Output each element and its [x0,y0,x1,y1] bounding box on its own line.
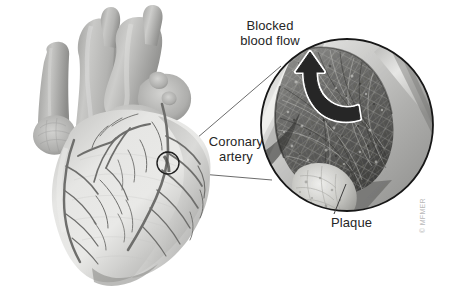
label-blocked-blood-flow-line1: Blocked [228,18,312,33]
label-coronary-artery: Coronary artery [200,134,272,164]
medical-illustration-figure: Blocked blood flow Coronary artery Plaqu… [0,0,451,302]
label-plaque: Plaque [331,215,372,230]
label-blocked-blood-flow: Blocked blood flow [228,18,312,48]
label-blocked-blood-flow-line2: blood flow [228,33,312,48]
label-coronary-artery-line1: Coronary [200,134,272,149]
label-coronary-artery-line2: artery [200,149,272,164]
copyright-credit: © MFMER [419,173,426,233]
